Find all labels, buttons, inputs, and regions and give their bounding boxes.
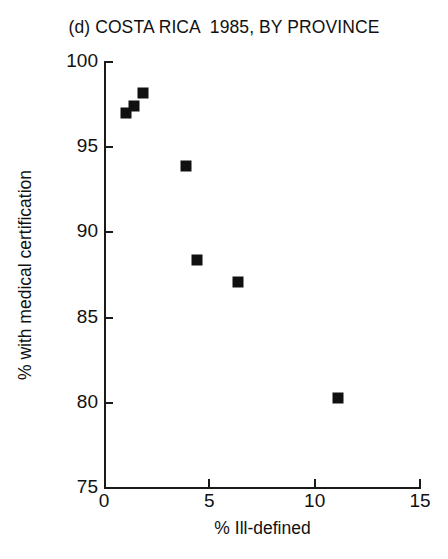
- data-point: [332, 392, 343, 403]
- y-tick-label-75: 75: [44, 476, 98, 498]
- data-point: [137, 87, 148, 98]
- y-tick-label-80: 80: [44, 391, 98, 413]
- x-tick-label-5: 5: [204, 490, 215, 512]
- y-axis-label: % with medical certification: [12, 62, 38, 488]
- data-point: [181, 160, 192, 171]
- x-tick-label-10: 10: [304, 490, 325, 512]
- y-tick-label-85: 85: [44, 306, 98, 328]
- x-tick-label-0: 0: [99, 490, 110, 512]
- y-tick-label-95: 95: [44, 135, 98, 157]
- y-tick-label-90: 90: [44, 220, 98, 242]
- chart-figure: (d) COSTA RICA 1985, BY PROVINCE 7580859…: [0, 0, 448, 559]
- x-tick-label-15: 15: [409, 490, 430, 512]
- x-axis-label: % Ill-defined: [104, 518, 421, 539]
- data-point: [191, 254, 202, 265]
- data-point: [232, 276, 243, 287]
- chart-title: (d) COSTA RICA 1985, BY PROVINCE: [0, 17, 448, 38]
- y-tick-label-100: 100: [44, 50, 98, 72]
- data-point: [120, 108, 131, 119]
- plot-area: [104, 62, 420, 488]
